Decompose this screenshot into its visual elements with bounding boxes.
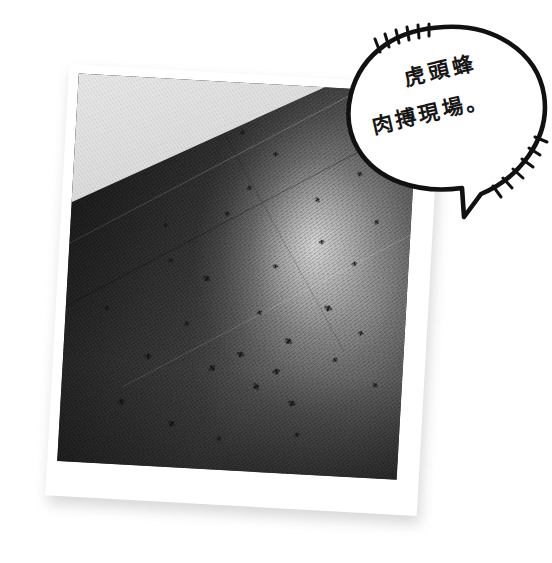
hornet-subject bbox=[273, 368, 281, 376]
hornet-subject bbox=[104, 305, 110, 311]
margin-vertical-text: 外 別 bbox=[0, 36, 12, 57]
hornet-subject bbox=[163, 223, 168, 228]
speech-bubble[interactable]: 虎頭蜂 肉搏現場。 bbox=[341, 18, 552, 233]
speech-line-2: 肉搏現場。 bbox=[368, 76, 521, 139]
hornet-subject bbox=[351, 261, 357, 267]
hornet-subject bbox=[272, 151, 278, 157]
page-canvas: 外 別 bbox=[0, 0, 552, 563]
hornet-subject bbox=[319, 240, 324, 245]
